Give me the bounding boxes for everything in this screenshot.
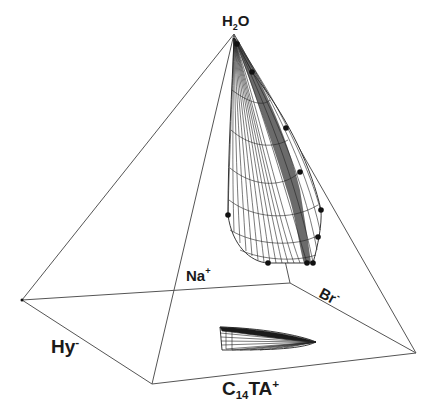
- label-superscript: -: [75, 335, 79, 348]
- label-text: O: [238, 12, 250, 29]
- label-text: TA: [248, 378, 272, 399]
- vertex-label-na: Na+: [186, 268, 211, 283]
- label-superscript: +: [205, 266, 210, 276]
- data-point: [283, 125, 289, 131]
- data-point: [225, 212, 231, 218]
- pyramid-edges: [22, 34, 416, 384]
- label-subscript: 2: [233, 22, 238, 32]
- phase-surface-mesh: [228, 38, 321, 263]
- edge-hy-na: [22, 283, 290, 300]
- edge-h2o-hy: [22, 34, 234, 300]
- label-text: Hy: [51, 336, 75, 357]
- data-point: [318, 207, 324, 213]
- data-point: [297, 169, 303, 175]
- vertex-label-hy: Hy-: [51, 337, 79, 356]
- edge-c14ta-br: [152, 353, 416, 384]
- data-point: [234, 41, 240, 47]
- label-text: H: [222, 12, 233, 29]
- data-point: [249, 69, 255, 75]
- base-projection-mesh: [220, 327, 316, 350]
- vertex-label-h2o: H2O: [222, 13, 250, 28]
- data-point: [315, 234, 321, 240]
- vertex-label-c14ta: C14TA+: [222, 379, 279, 398]
- label-text: Na: [186, 267, 205, 284]
- label-superscript: +: [272, 377, 279, 390]
- data-point: [265, 260, 271, 266]
- vertex-point-hy: [21, 299, 24, 302]
- label-subscript: 14: [236, 389, 249, 401]
- label-text: C: [222, 378, 236, 399]
- data-point: [304, 260, 310, 266]
- edge-hy-c14ta: [22, 300, 152, 384]
- data-point: [310, 260, 316, 266]
